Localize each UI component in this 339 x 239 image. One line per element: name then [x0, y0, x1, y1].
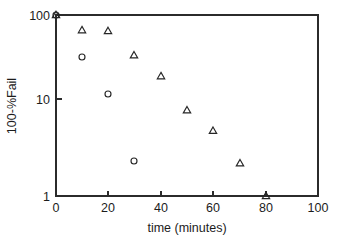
- x-axis-tick-labels: 0 20 40 60 80 100: [53, 201, 329, 215]
- x-tick-label-80: 80: [259, 201, 273, 215]
- x-tick-label-40: 40: [154, 201, 168, 215]
- x-tick-label-20: 20: [101, 201, 115, 215]
- x-tick-label-0: 0: [53, 201, 60, 215]
- scatter-chart: 0 20 40 60 80 100 100 10 1 time (minutes…: [0, 0, 339, 239]
- data-point-triangle: [157, 72, 164, 78]
- data-point-circle: [79, 54, 85, 60]
- y-axis-ticks: [56, 15, 62, 196]
- plot-area: 0 20 40 60 80 100 100 10 1 time (minutes…: [0, 0, 339, 239]
- y-tick-label-1: 1: [43, 190, 50, 204]
- data-point-triangle: [104, 27, 111, 33]
- y-axis-title: 100-%Fail: [5, 78, 19, 134]
- data-point-triangle: [183, 107, 190, 113]
- y-tick-label-10: 10: [36, 93, 50, 107]
- data-point-triangle: [130, 52, 137, 58]
- x-axis-title: time (minutes): [147, 221, 226, 235]
- data-point-circle: [105, 91, 111, 97]
- data-point-circle: [131, 158, 137, 164]
- data-point-triangle: [78, 26, 85, 32]
- data-point-triangle: [236, 160, 243, 166]
- x-tick-label-100: 100: [308, 201, 329, 215]
- series-circles: [53, 12, 137, 164]
- data-point-triangle: [209, 127, 216, 133]
- y-axis-tick-labels: 100 10 1: [29, 9, 50, 204]
- y-tick-label-100: 100: [29, 9, 50, 23]
- x-tick-label-60: 60: [206, 201, 220, 215]
- series-triangles: [52, 11, 269, 198]
- x-axis-ticks: [56, 191, 318, 196]
